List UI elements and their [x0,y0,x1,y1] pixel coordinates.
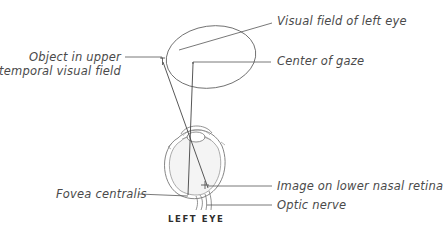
caption-left-eye: LEFT EYE [168,214,224,224]
object-leader [125,57,162,59]
label-optic-nerve: Optic nerve [277,199,346,212]
eye-visual-field-diagram: Visual field of left eye Center of gaze … [0,0,448,227]
visual-field-leader [179,23,272,50]
eyeball-icon [165,126,226,199]
label-center-of-gaze: Center of gaze [277,55,364,68]
label-fovea-centralis: Fovea centralis [56,188,147,201]
label-object-line1: Object in upper [29,51,121,64]
label-object-line2: temporal visual field [0,65,121,78]
label-image-on-retina: Image on lower nasal retina [277,180,443,193]
object-marker-icon [160,58,165,65]
label-visual-field: Visual field of left eye [277,15,407,28]
